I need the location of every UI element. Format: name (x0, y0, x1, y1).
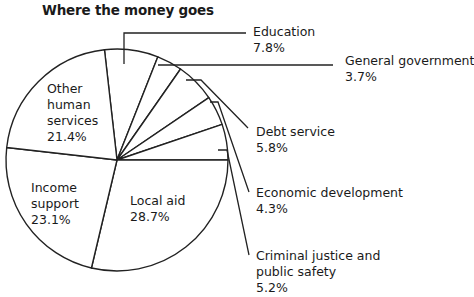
label-income-support: Income support 23.1% (31, 180, 79, 228)
label-criminal-justice: Criminal justice and public safety 5.2% (256, 248, 380, 296)
label-education: Education 7.8% (253, 24, 315, 56)
label-local-aid: Local aid 28.7% (130, 193, 185, 225)
label-other-human-services: Other human services 21.4% (47, 81, 98, 145)
label-economic-development: Economic development 4.3% (256, 185, 403, 217)
label-debt-service: Debt service 5.8% (256, 124, 335, 156)
pie-slices (6, 49, 228, 271)
label-general-government: General government 3.7% (345, 53, 474, 85)
